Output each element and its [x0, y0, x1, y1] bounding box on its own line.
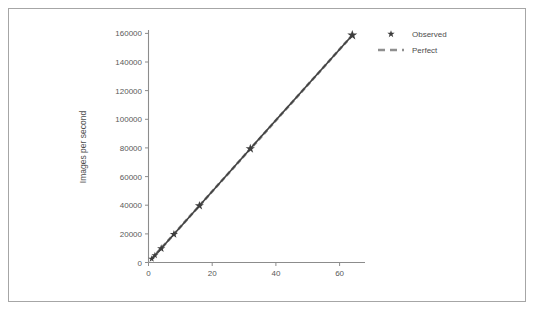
chart-figure: 160000 140000 120000 100000 80000 60000 … — [0, 0, 534, 310]
ytick-label-140000: 140000 — [98, 58, 142, 67]
chart-legend: Observed Perfect — [376, 27, 447, 59]
legend-item-perfect: Perfect — [376, 43, 447, 57]
xtick-label-40: 40 — [271, 269, 280, 278]
legend-item-observed: Observed — [376, 27, 447, 41]
ytick-label-0: 0 — [98, 258, 142, 267]
legend-label-perfect: Perfect — [412, 46, 437, 55]
star-marker-icon — [376, 28, 406, 40]
dashed-line-icon — [376, 44, 406, 56]
xtick-label-60: 60 — [335, 269, 344, 278]
ytick-label-20000: 20000 — [98, 229, 142, 238]
ytick-label-80000: 80000 — [98, 143, 142, 152]
y-axis-title: Images per second — [78, 97, 88, 197]
series-observed-line — [152, 35, 353, 259]
legend-label-observed: Observed — [412, 30, 447, 39]
ytick-label-100000: 100000 — [98, 115, 142, 124]
xtick-label-0: 0 — [146, 269, 150, 278]
ytick-label-160000: 160000 — [98, 29, 142, 38]
ytick-label-60000: 60000 — [98, 172, 142, 181]
xtick-label-20: 20 — [208, 269, 217, 278]
ytick-label-120000: 120000 — [98, 86, 142, 95]
ytick-label-40000: 40000 — [98, 201, 142, 210]
